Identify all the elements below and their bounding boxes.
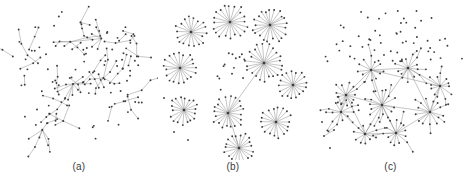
graph-node [104, 54, 106, 56]
graph-edge [77, 47, 84, 54]
graph-node [285, 27, 287, 29]
graph-node [407, 67, 410, 70]
graph-node [52, 97, 54, 99]
graph-node [295, 72, 297, 74]
graph-edge [396, 120, 397, 133]
graph-node [439, 85, 442, 88]
graph-node [182, 42, 184, 44]
graph-edge [230, 22, 231, 38]
graph-node [215, 11, 217, 13]
graph-node [430, 88, 432, 90]
graph-node [188, 44, 190, 46]
graph-node [266, 40, 268, 42]
graph-edge [430, 103, 438, 112]
graph-edge [230, 22, 247, 27]
graph-node [230, 126, 232, 128]
graph-edge [78, 85, 80, 93]
graph-edge [107, 49, 108, 60]
graph-edge [276, 122, 287, 131]
graph-node [281, 37, 283, 39]
graph-node [114, 103, 116, 105]
graph-edge [128, 90, 142, 95]
graph-node [117, 37, 119, 39]
graph-node [195, 108, 197, 110]
graph-node [247, 157, 249, 159]
graph-node [48, 105, 50, 107]
graph-node [357, 104, 359, 106]
graph-node [225, 35, 227, 37]
graph-node [184, 98, 186, 100]
graph-node [224, 64, 226, 66]
graph-node [82, 49, 84, 51]
graph-node [405, 40, 407, 42]
graph-node [327, 60, 329, 62]
graph-node [345, 99, 347, 101]
panel-c-plot [308, 0, 473, 160]
graph-node [342, 40, 344, 42]
graph-node [340, 24, 342, 26]
graph-edge [417, 48, 421, 57]
graph-node [103, 64, 105, 66]
graph-edge [64, 42, 70, 46]
graph-edge [20, 63, 33, 69]
graph-node [420, 47, 422, 49]
graph-edge [262, 12, 270, 25]
graph-node [72, 83, 74, 85]
graph-node [227, 112, 230, 115]
graph-edge [72, 43, 80, 50]
graph-edge [95, 79, 99, 88]
graph-node [407, 81, 409, 83]
graph-node [129, 75, 131, 77]
graph-node [374, 49, 376, 51]
graph-node [251, 155, 253, 157]
graph-node [40, 121, 42, 123]
graph-node [49, 113, 51, 115]
graph-node [335, 84, 337, 86]
graph-edge [341, 100, 346, 112]
graph-node [281, 16, 283, 18]
graph-node [298, 93, 300, 95]
graph-node [429, 76, 431, 78]
graph-node [364, 143, 366, 145]
graph-node [238, 147, 241, 150]
graph-node [175, 25, 177, 27]
graph-node [56, 82, 58, 84]
graph-node [425, 68, 427, 70]
graph-node [275, 121, 278, 124]
graph-edge [180, 68, 196, 73]
graph-node [130, 55, 132, 57]
graph-edge [276, 122, 278, 138]
graph-node [125, 47, 127, 49]
graph-edge [123, 55, 127, 69]
graph-node [201, 35, 203, 37]
graph-node [232, 53, 234, 55]
graph-node [384, 127, 386, 129]
graph-edge [264, 63, 265, 82]
graph-node [47, 68, 49, 70]
graph-node [285, 33, 287, 35]
graph-node [83, 61, 85, 63]
graph-node [351, 105, 353, 107]
graph-node [94, 93, 96, 95]
graph-node [369, 103, 371, 105]
graph-node [430, 59, 432, 61]
graph-node [191, 59, 193, 61]
graph-node [440, 57, 442, 59]
graph-node [286, 22, 288, 24]
graph-edge [126, 48, 138, 56]
graph-node [370, 99, 372, 101]
graph-node [109, 82, 111, 84]
graph-node [218, 98, 220, 100]
graph-edge [270, 11, 280, 25]
graph-node [353, 111, 355, 113]
graph-node [383, 71, 385, 73]
graph-edge [371, 105, 382, 109]
graph-edge [265, 122, 276, 132]
graph-node [405, 135, 407, 137]
graph-edge [254, 20, 270, 25]
graph-node [353, 131, 355, 133]
graph-node [12, 56, 14, 58]
graph-node [20, 43, 22, 45]
graph-node [172, 109, 174, 111]
graph-edge [407, 142, 413, 152]
